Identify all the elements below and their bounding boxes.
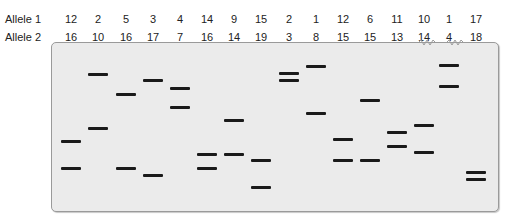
gel-band xyxy=(439,64,459,67)
allele-value: 6 xyxy=(358,13,382,25)
gel-band xyxy=(279,79,299,82)
gel-band xyxy=(143,79,163,82)
gel-band xyxy=(333,159,353,162)
allele-value: 2 xyxy=(86,13,110,25)
allele-value: 15 xyxy=(249,13,273,25)
allele-value: 11 xyxy=(385,13,409,25)
allele-value: 9 xyxy=(222,13,246,25)
gel-panel xyxy=(51,42,499,212)
allele-value: 5 xyxy=(114,13,138,25)
gel-band xyxy=(88,73,108,76)
allele-value: 14 xyxy=(195,13,219,25)
gel-band xyxy=(88,127,108,130)
allele-2-label: Allele 2 xyxy=(5,31,41,43)
gel-band xyxy=(466,171,486,174)
gel-band xyxy=(333,138,353,141)
allele-value: 2 xyxy=(277,13,301,25)
gel-band xyxy=(116,93,136,96)
gel-band xyxy=(251,186,271,189)
allele-value: 3 xyxy=(141,13,165,25)
allele-value: 12 xyxy=(331,13,355,25)
gel-band xyxy=(306,65,326,68)
allele-value: 1 xyxy=(437,13,461,25)
gel-band xyxy=(360,159,380,162)
gel-band xyxy=(439,85,459,88)
gel-band xyxy=(360,99,380,102)
gel-band xyxy=(414,151,434,154)
allele-1-label: Allele 1 xyxy=(5,13,41,25)
squiggle-break-icon xyxy=(418,39,438,47)
gel-band xyxy=(197,167,217,170)
gel-band xyxy=(143,174,163,177)
gel-band xyxy=(279,72,299,75)
gel-band xyxy=(224,119,244,122)
gel-band xyxy=(61,140,81,143)
allele-value: 17 xyxy=(464,13,488,25)
squiggle-break-icon xyxy=(446,39,466,47)
gel-band xyxy=(116,167,136,170)
allele-value: 10 xyxy=(412,13,436,25)
gel-band xyxy=(170,87,190,90)
gel-band xyxy=(224,153,244,156)
gel-band xyxy=(414,124,434,127)
gel-band xyxy=(387,131,407,134)
allele-value: 12 xyxy=(59,13,83,25)
gel-band xyxy=(387,145,407,148)
allele-value: 4 xyxy=(168,13,192,25)
gel-band xyxy=(466,178,486,181)
gel-band xyxy=(251,159,271,162)
allele-value: 1 xyxy=(304,13,328,25)
gel-band xyxy=(197,153,217,156)
gel-band xyxy=(306,112,326,115)
gel-band xyxy=(61,167,81,170)
gel-band xyxy=(170,106,190,109)
